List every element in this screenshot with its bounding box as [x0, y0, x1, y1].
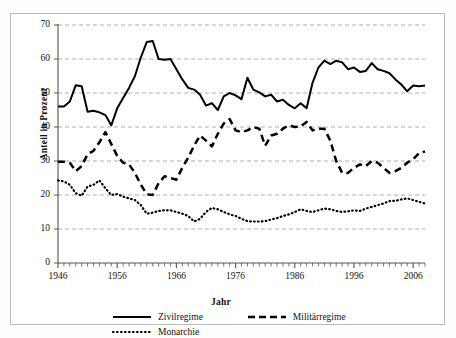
x-tick-label-1946: 1946	[38, 271, 78, 281]
x-tick-label-1996: 1996	[334, 271, 374, 281]
x-axis-title: Jahr	[161, 297, 281, 307]
chart-legend: Zivilregime Militärregime Monarchie	[106, 309, 406, 338]
y-tick-label-20: 20	[24, 189, 50, 199]
y-tick-marks	[54, 25, 58, 263]
y-tick-label-10: 10	[24, 223, 50, 233]
x-tick-label-1976: 1976	[216, 271, 256, 281]
series-line-zivilregime	[58, 41, 425, 125]
legend-item-monarchie: Monarchie	[112, 327, 199, 337]
gridlines	[58, 25, 425, 229]
legend-item-zivilregime: Zivilregime	[112, 312, 203, 322]
axis-lines	[58, 24, 425, 263]
y-tick-label-0: 0	[24, 257, 50, 267]
y-tick-label-60: 60	[24, 53, 50, 63]
y-tick-label-70: 70	[24, 19, 50, 29]
series-line-monarchie	[58, 180, 425, 221]
legend-swatch-dotted-icon	[112, 327, 152, 337]
legend-label-militaerregime: Militärregime	[293, 312, 346, 322]
series-line-militärregime	[58, 119, 425, 195]
legend-row-1: Zivilregime Militärregime	[106, 309, 406, 324]
y-tick-label-50: 50	[24, 87, 50, 97]
legend-swatch-solid-icon	[112, 312, 152, 322]
legend-swatch-dashed-icon	[247, 312, 287, 322]
data-series-layer	[58, 41, 425, 222]
y-tick-label-40: 40	[24, 121, 50, 131]
chart-figure: Anteil in Prozent Jahr 706050403020100 1…	[0, 0, 456, 338]
legend-row-2: Monarchie	[106, 324, 406, 338]
x-tick-label-1986: 1986	[275, 271, 315, 281]
x-tick-marks	[58, 263, 425, 268]
legend-label-zivilregime: Zivilregime	[158, 312, 203, 322]
x-tick-label-2006: 2006	[393, 271, 433, 281]
x-tick-label-1966: 1966	[156, 271, 196, 281]
legend-item-militaerregime: Militärregime	[247, 312, 346, 322]
chart-frame: Anteil in Prozent Jahr 706050403020100 1…	[10, 13, 445, 325]
y-tick-label-30: 30	[24, 155, 50, 165]
legend-label-monarchie: Monarchie	[158, 327, 199, 337]
x-tick-label-1956: 1956	[97, 271, 137, 281]
